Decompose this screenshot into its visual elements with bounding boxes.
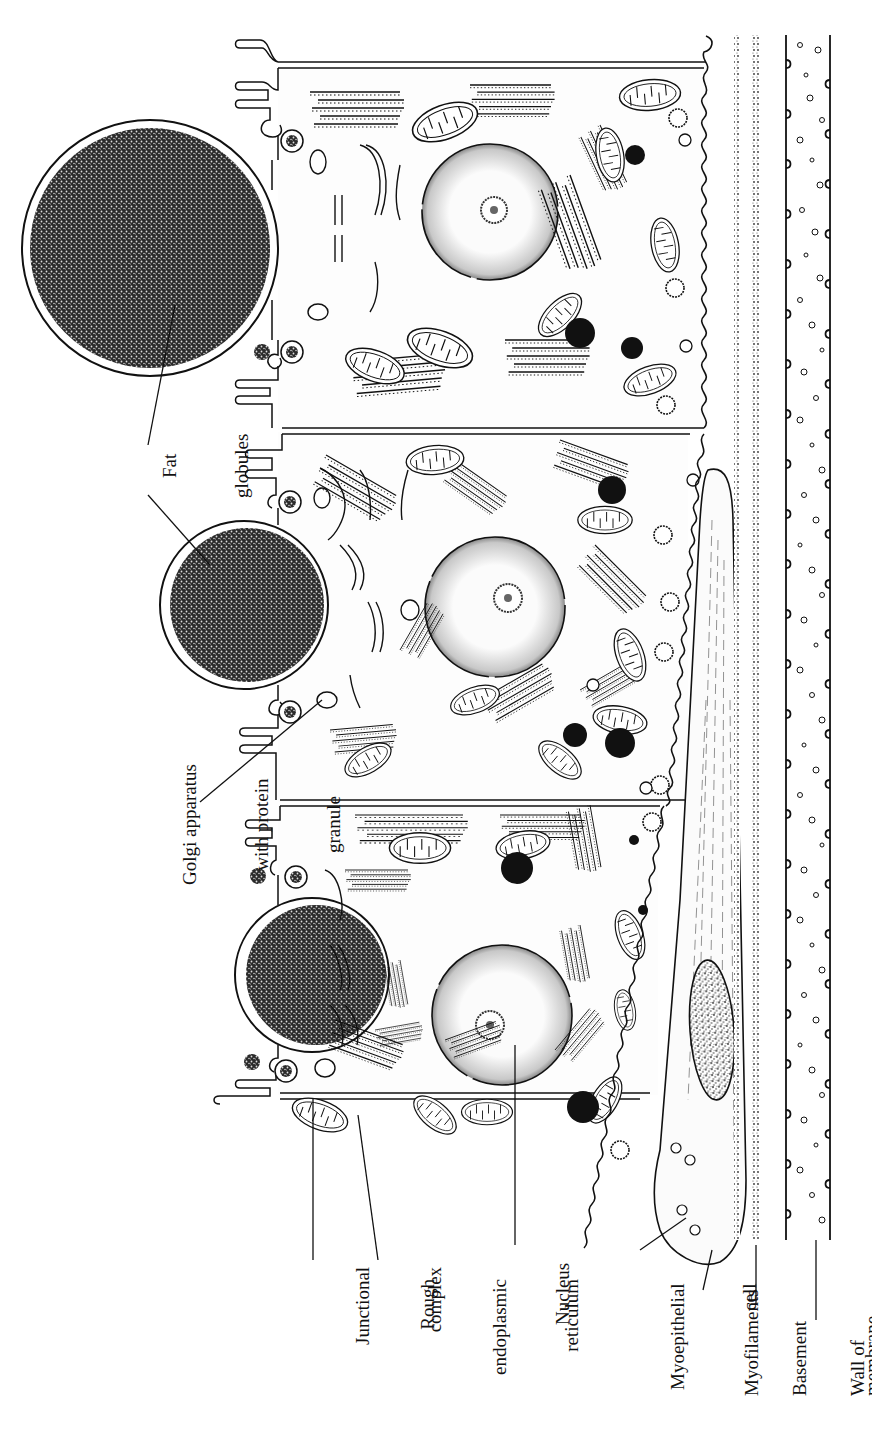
fat-globule-small bbox=[235, 898, 389, 1052]
nucleus-1 bbox=[422, 144, 558, 280]
label-fat-globules: Fat globules bbox=[110, 434, 278, 498]
leader-rough-er bbox=[358, 1115, 378, 1260]
mammary-secretory-cell-diagram bbox=[0, 0, 872, 1436]
label-nucleus: Nucleus bbox=[503, 1263, 599, 1325]
nucleus-2 bbox=[425, 537, 565, 677]
basement-membrane bbox=[734, 35, 760, 1240]
label-golgi-apparatus: Golgi apparatus with protein granule bbox=[130, 764, 370, 885]
nucleus-3 bbox=[432, 945, 572, 1085]
fat-globule-large bbox=[22, 120, 278, 376]
capillary-wall bbox=[786, 35, 830, 1240]
capillary-vesicles bbox=[797, 43, 825, 1224]
fat-globule-medium bbox=[160, 521, 328, 689]
label-wall-of-capillary: Wall of capillary bbox=[798, 1330, 872, 1396]
